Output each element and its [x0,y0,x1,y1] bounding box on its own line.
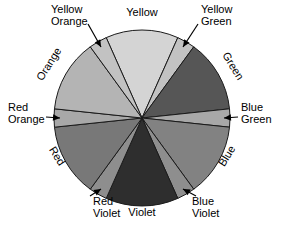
color-wheel-svg: GreenBlueRedOrange YellowVioletYellowGre… [0,0,284,232]
color-wheel-diagram: GreenBlueRedOrange YellowVioletYellowGre… [0,0,284,232]
label-yellow: Yellow [126,6,157,18]
callout-label-yellow-green: YellowGreen [201,3,232,27]
callout-label-blue-green: BlueGreen [241,101,272,125]
wedge-layer [54,30,230,206]
label-violet: Violet [128,206,155,218]
arc-label-green: Green [220,50,246,82]
callout-label-yellow-orange: YellowOrange [51,3,88,27]
callout-label-blue-violet: BlueViolet [192,195,219,219]
arc-label-orange: Orange [34,45,64,82]
callout-label-red-orange: RedOrange [8,101,45,125]
